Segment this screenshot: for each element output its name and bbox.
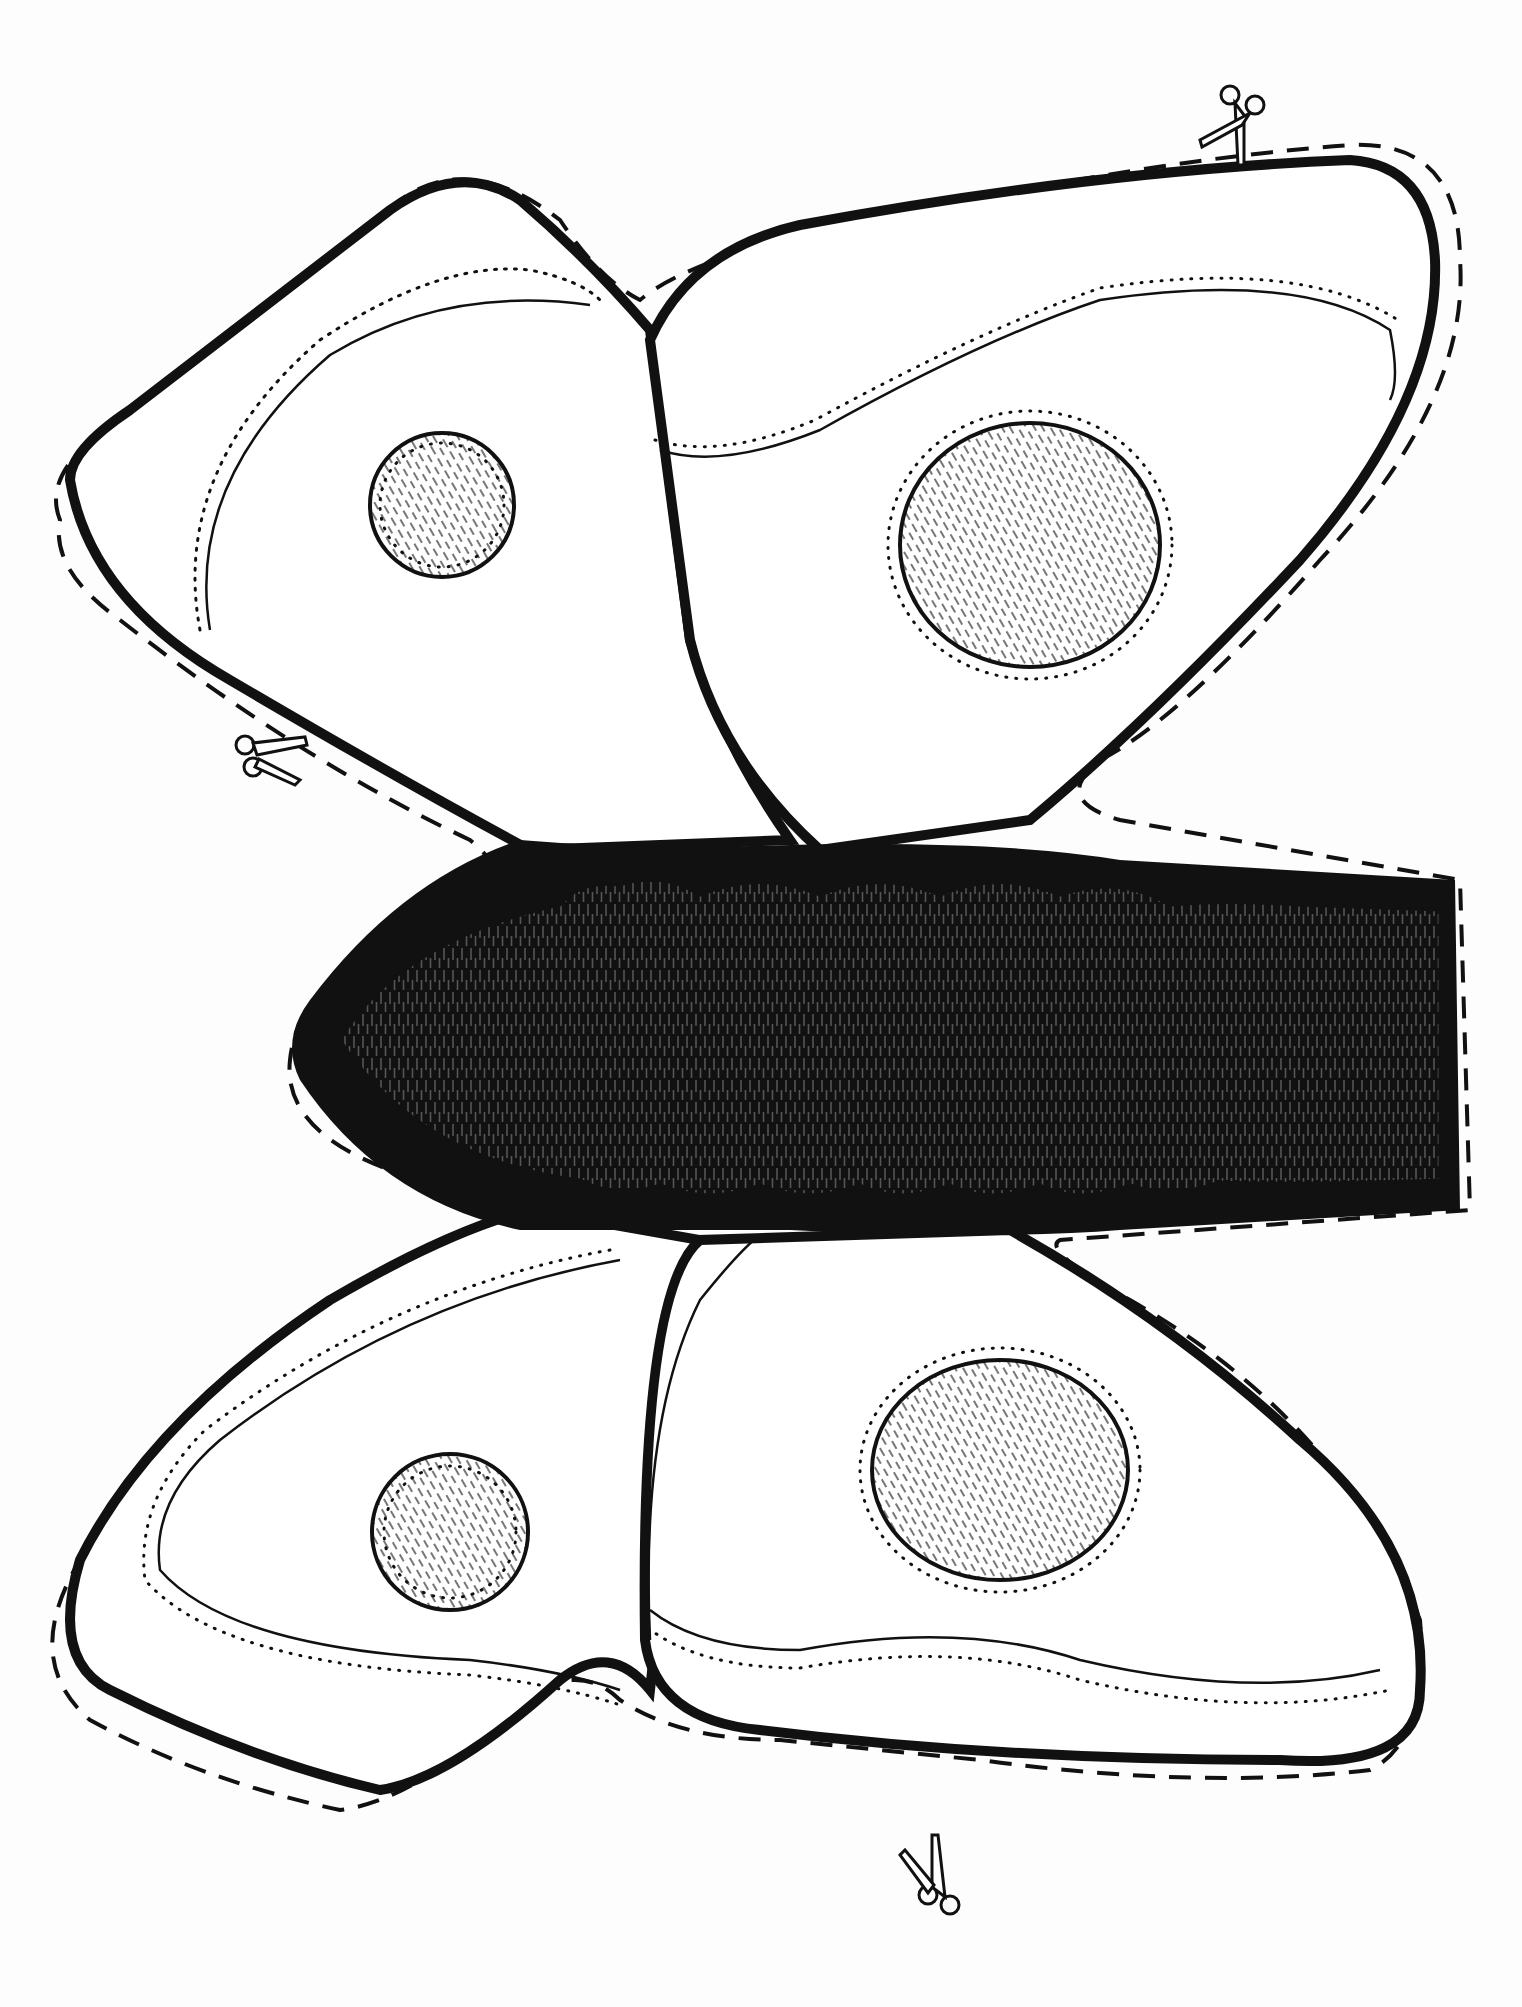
wing-spot bbox=[372, 1454, 528, 1610]
butterfly-body bbox=[340, 879, 1440, 1195]
wing-spot bbox=[872, 1360, 1128, 1580]
wing-spot bbox=[900, 423, 1160, 667]
scissors-icon bbox=[900, 1835, 959, 1914]
wing-spot bbox=[370, 433, 514, 577]
butterfly-template bbox=[0, 0, 1522, 2007]
scissors-icon bbox=[236, 736, 307, 785]
